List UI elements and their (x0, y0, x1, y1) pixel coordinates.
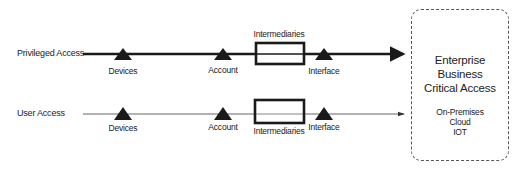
user-devices-label: Devices (109, 123, 138, 133)
user-access-path (83, 100, 404, 123)
user-account-label: Account (208, 122, 237, 132)
intermediaries-box (255, 100, 304, 123)
privileged-intermediaries-label: Intermediaries (253, 29, 304, 39)
devices-triangle-icon (114, 107, 132, 120)
privileged-interface-label: Interface (308, 66, 339, 76)
target-title-line: Critical Access (412, 81, 508, 95)
user-interface-label: Interface (308, 122, 339, 132)
target-title: Enterprise Business Critical Access (412, 53, 508, 95)
environment-iot: IOT (412, 127, 508, 137)
privileged-account-label: Account (208, 65, 237, 75)
target-environments: On-Premises Cloud IOT (412, 107, 508, 137)
user-access-label: User Access (17, 108, 65, 118)
target-title-line: Enterprise (412, 53, 508, 67)
privileged-access-path (83, 43, 403, 64)
privileged-access-label: Privileged Access (17, 48, 84, 58)
user-intermediaries-label: Intermediaries (253, 126, 304, 136)
account-triangle-icon (214, 107, 232, 120)
environment-on-premises: On-Premises (412, 107, 508, 117)
target-title-line: Business (412, 67, 508, 81)
environment-cloud: Cloud (412, 117, 508, 127)
interface-triangle-icon (315, 107, 333, 120)
enterprise-critical-access-box: Enterprise Business Critical Access On-P… (411, 9, 509, 161)
privileged-devices-label: Devices (109, 66, 138, 76)
access-path-diagram: Privileged Access User Access Devices Ac… (0, 0, 523, 172)
